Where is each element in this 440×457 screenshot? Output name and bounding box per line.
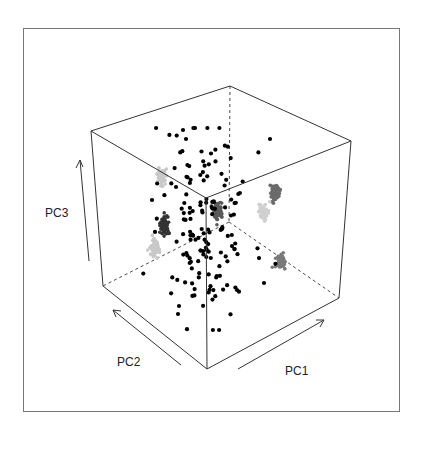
pca-3d-scatter-figure: PC3 PC2 PC1: [0, 0, 440, 457]
pc2-axis-label: PC2: [117, 355, 141, 369]
figure-frame: [24, 29, 400, 412]
pc3-axis-label: PC3: [45, 206, 69, 220]
pc1-axis-label: PC1: [285, 364, 309, 378]
